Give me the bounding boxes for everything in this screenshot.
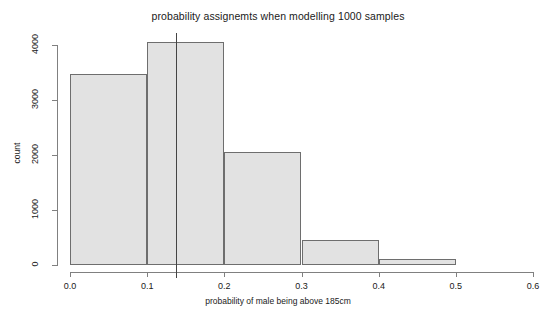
y-axis-tick-label: 2000 <box>30 141 40 167</box>
x-axis-tick <box>533 272 534 277</box>
y-axis-tick <box>52 210 57 211</box>
x-axis-tick-label: 0.5 <box>450 281 463 291</box>
x-axis-tick-label: 0.1 <box>141 281 154 291</box>
y-axis-tick <box>52 45 57 46</box>
x-axis-tick <box>302 272 303 277</box>
x-axis-tick-label: 0.4 <box>372 281 385 291</box>
y-axis-title: count <box>12 123 22 183</box>
y-axis-tick-label: 1000 <box>30 196 40 222</box>
y-axis-tick-label: 4000 <box>30 31 40 57</box>
vertical-reference-line <box>176 33 177 278</box>
y-axis-line <box>57 45 58 266</box>
y-axis-tick-label: 0 <box>30 251 40 277</box>
histogram-bar <box>224 152 301 265</box>
x-axis-tick <box>379 272 380 277</box>
y-axis-tick <box>52 100 57 101</box>
x-axis-tick <box>224 272 225 277</box>
histogram-bar <box>70 74 147 265</box>
x-axis-tick <box>147 272 148 277</box>
y-axis-tick <box>52 155 57 156</box>
x-axis-tick-label: 0.2 <box>218 281 231 291</box>
histogram-bar <box>302 240 379 265</box>
histogram-plot: probability assignemts when modelling 10… <box>0 0 556 320</box>
histogram-bar <box>147 42 224 265</box>
histogram-bar <box>379 259 456 265</box>
x-axis-title: probability of male being above 185cm <box>0 296 556 306</box>
x-axis-tick <box>70 272 71 277</box>
y-axis-tick-label: 3000 <box>30 86 40 112</box>
y-axis-tick <box>52 265 57 266</box>
x-axis-tick-label: 0.3 <box>295 281 308 291</box>
x-axis-tick <box>456 272 457 277</box>
page-title: probability assignemts when modelling 10… <box>0 10 556 22</box>
x-axis-tick-label: 0.6 <box>527 281 540 291</box>
x-axis-tick-label: 0.0 <box>64 281 77 291</box>
